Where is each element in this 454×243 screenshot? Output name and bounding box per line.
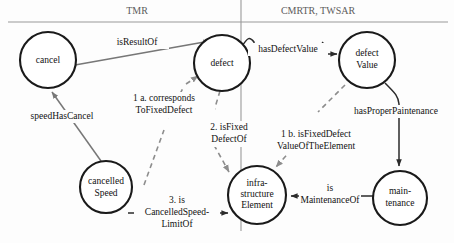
node-cancel[interactable]: cancel (20, 32, 76, 88)
edge-label-is-fixed-defect-value-line2: ValueOfTheElement (277, 141, 355, 151)
edge-label-has-proper-paintenance: hasProperPaintenance (338, 105, 454, 118)
edge-label-is-fixed-defect-value-of-the-element: 1 b. isFixedDefect ValueOfTheElement (260, 128, 372, 154)
edge-speed-has-cancel (52, 92, 101, 161)
edge-label-is-fixed-defect-value-line1: 1 b. isFixedDefect (281, 129, 351, 139)
edge-label-has-defect-value-text: hasDefectValue (258, 44, 318, 54)
node-infrastructure-element-label-line2: structure (240, 189, 273, 199)
edge-is-fixed-defect-value-of-the-element (276, 85, 345, 167)
edge-label-is-result-of-text: isResultOf (117, 37, 158, 47)
node-infrastructure-element[interactable]: infra- structure Element (228, 166, 286, 224)
node-defect-value[interactable]: defect Value (339, 32, 395, 88)
node-cancelled-speed-label-line1: cancelled (88, 176, 124, 186)
edge-label-is-maintenance-of-line1: is (327, 183, 334, 193)
node-cancelled-speed[interactable]: cancelled Speed (80, 161, 132, 213)
node-defect-value-label-line1: defect (355, 48, 379, 58)
edge-label-is-fixed-defect-of-line2: DefectOf (211, 134, 247, 144)
edge-label-speed-has-cancel: speedHasCancel (16, 110, 108, 123)
edge-label-is-fixed-defect-of-line1: 2. isFixed (210, 122, 248, 132)
edge-label-corresponds-to-fixed-defect: 1 a. corresponds ToFixedDefect (113, 92, 215, 118)
edge-label-is-result-of: isResultOf (105, 36, 169, 49)
edge-label-has-proper-paintenance-text: hasProperPaintenance (354, 106, 438, 116)
node-defect[interactable]: defect (194, 35, 250, 91)
edge-label-is-fixed-defect-of: 2. isFixed DefectOf (193, 121, 265, 147)
edge-label-is-cancelled-speed-limit-of-line1: 3. is (169, 195, 185, 205)
node-cancelled-speed-label-line2: Speed (94, 188, 117, 198)
edge-label-is-maintenance-of: is MaintenanceOf (299, 183, 361, 209)
header-label-right: CMRTR, TWSAR (281, 5, 356, 16)
node-infrastructure-element-label-line1: infra- (246, 178, 267, 188)
edge-label-speed-has-cancel-text: speedHasCancel (31, 111, 94, 121)
edge-label-corresponds-to-fixed-defect-line2: ToFixedDefect (136, 105, 193, 115)
node-cancel-label: cancel (36, 55, 61, 65)
node-defect-value-label-line2: Value (356, 60, 378, 70)
node-maintenance-label-line2: tenance (385, 198, 414, 208)
header-label-left: TMR (126, 5, 148, 16)
edge-has-proper-paintenance (385, 83, 399, 166)
node-infrastructure-element-label-line3: Element (241, 200, 273, 210)
edge-label-is-cancelled-speed-limit-of-line3: LimitOf (161, 219, 193, 229)
node-maintenance[interactable]: main- tenance (373, 171, 427, 225)
diagram-canvas: TMR CMRTR, TWSAR (0, 0, 454, 243)
edge-label-is-maintenance-of-line2: MaintenanceOf (300, 195, 360, 205)
edge-label-is-cancelled-speed-limit-of: 3. is CancelledSpeed- LimitOf (134, 194, 220, 232)
node-maintenance-label-line1: main- (389, 186, 411, 196)
edge-label-has-defect-value: hasDefectValue (248, 43, 328, 56)
edge-label-corresponds-to-fixed-defect-line1: 1 a. corresponds (133, 93, 195, 103)
node-defect-label: defect (210, 58, 234, 68)
edge-label-is-cancelled-speed-limit-of-line2: CancelledSpeed- (145, 207, 209, 217)
node-cancelled-speed-circle[interactable] (80, 161, 132, 213)
diagram-svg: TMR CMRTR, TWSAR (0, 0, 454, 243)
